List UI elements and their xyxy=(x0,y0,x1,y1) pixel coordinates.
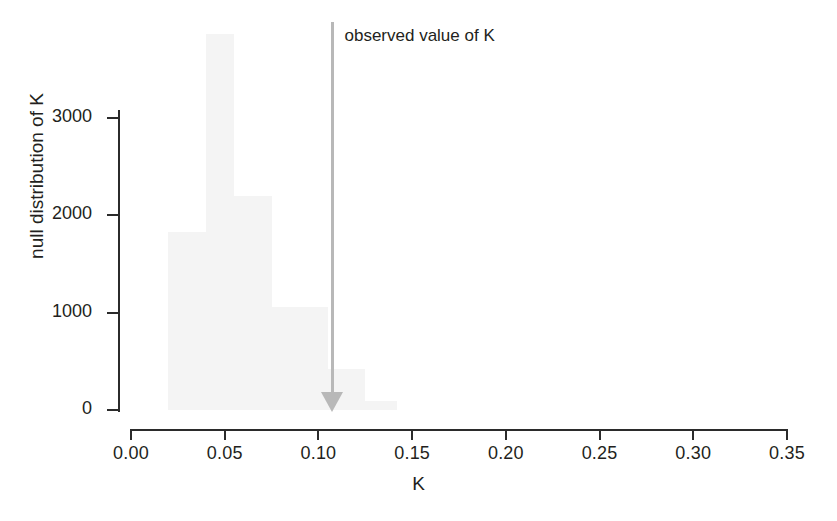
x-axis-tick xyxy=(317,429,319,440)
x-axis-tick-label: 0.00 xyxy=(96,443,166,464)
histogram-bar xyxy=(272,307,328,410)
x-axis-tick-label: 0.05 xyxy=(190,443,260,464)
x-axis-tick-label: 0.30 xyxy=(658,443,728,464)
x-axis-tick xyxy=(224,429,226,440)
x-axis-tick-label: 0.35 xyxy=(752,443,822,464)
x-axis-title: K xyxy=(0,473,837,495)
x-axis-tick xyxy=(411,429,413,440)
histogram-bar xyxy=(365,401,397,410)
x-axis-tick-label: 0.20 xyxy=(471,443,541,464)
y-axis-tick-label: 1000 xyxy=(0,301,92,322)
x-axis-tick xyxy=(786,429,788,440)
y-axis-tick xyxy=(107,117,118,119)
histogram-bar xyxy=(168,232,205,410)
x-axis-tick-label: 0.15 xyxy=(377,443,447,464)
x-axis-tick-label: 0.10 xyxy=(283,443,353,464)
y-axis-tick xyxy=(107,312,118,314)
histogram-bar xyxy=(234,196,271,410)
y-axis-tick xyxy=(107,409,118,411)
x-axis-tick-label: 0.25 xyxy=(565,443,635,464)
histogram-bar xyxy=(206,34,234,410)
observed-value-annotation-label: observed value of K xyxy=(344,26,494,46)
y-axis-tick xyxy=(107,214,118,216)
x-axis-line xyxy=(131,429,787,431)
x-axis-tick xyxy=(130,429,132,440)
observed-value-arrow-head xyxy=(321,392,343,412)
y-axis-title: null distribution of K xyxy=(26,61,48,291)
y-axis-line xyxy=(118,110,120,412)
y-axis-tick-label: 0 xyxy=(0,398,92,419)
x-axis-tick xyxy=(505,429,507,440)
x-axis-tick xyxy=(599,429,601,440)
chart-figure: observed value of K 0.000.050.100.150.20… xyxy=(0,0,837,521)
x-axis-tick xyxy=(692,429,694,440)
observed-value-arrow-line xyxy=(331,22,334,394)
plot-area: observed value of K 0.000.050.100.150.20… xyxy=(0,0,837,521)
